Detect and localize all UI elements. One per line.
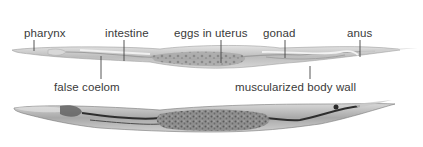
label-eggs-in-uterus: eggs in uterus <box>174 27 248 40</box>
label-intestine: intestine <box>105 27 149 40</box>
label-false-coelom: false coelom <box>54 81 120 94</box>
worm-top <box>12 45 418 68</box>
nematode-anatomy-figure: pharynx intestine eggs in uterus gonad a… <box>0 0 423 147</box>
label-muscularized-body-wall: muscularized body wall <box>235 81 356 94</box>
label-pharynx: pharynx <box>24 27 66 40</box>
worm-bottom <box>14 100 395 132</box>
worm-illustrations <box>0 0 423 147</box>
label-anus: anus <box>347 27 372 40</box>
label-gonad: gonad <box>263 27 295 40</box>
